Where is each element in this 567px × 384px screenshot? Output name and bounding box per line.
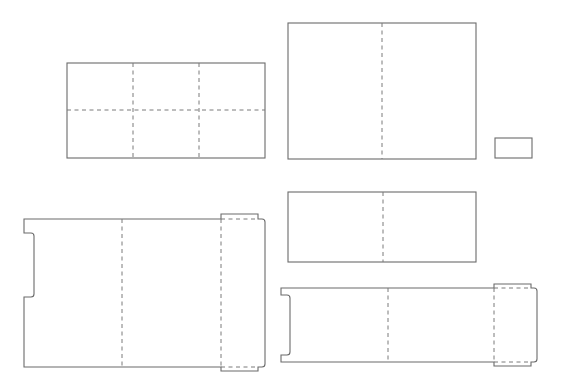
panel-bifold-short [288,192,476,262]
box-dieline-large [24,214,265,371]
dieline-canvas [0,0,567,384]
cut-outline [281,284,537,366]
panel-small [495,138,532,158]
box-dieline-long [281,284,537,366]
cut-outline [288,192,476,262]
cut-outline [24,214,265,371]
panel-grid-2x3 [67,63,265,158]
shapes-layer [24,23,537,371]
cut-outline [495,138,532,158]
panel-bifold-tall [288,23,476,159]
